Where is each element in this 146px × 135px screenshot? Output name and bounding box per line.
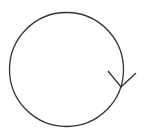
diagram-canvas [0, 0, 146, 135]
loop-arrow-icon [0, 0, 146, 135]
loop-circle [10, 13, 124, 127]
